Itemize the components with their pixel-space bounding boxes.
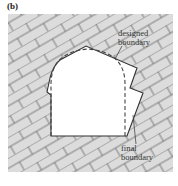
final-boundary-label: final boundary bbox=[121, 144, 153, 161]
designed-boundary-label-line2: boundary bbox=[118, 38, 150, 47]
designed-boundary-label: designed boundary bbox=[118, 29, 150, 46]
final-boundary-label-line2: boundary bbox=[121, 153, 153, 162]
